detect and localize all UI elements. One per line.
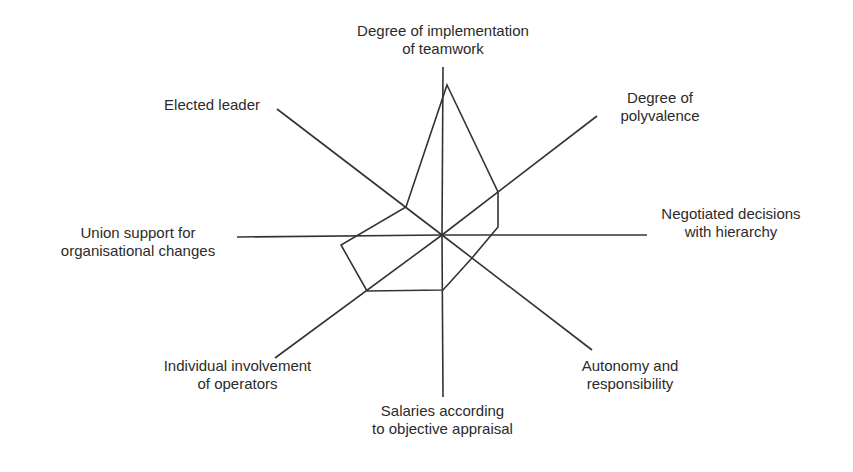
label-involvement: Individual involvement of operators bbox=[145, 357, 330, 393]
label-autonomy: Autonomy and responsibility bbox=[555, 357, 705, 393]
label-salaries: Salaries according to objective appraisa… bbox=[340, 402, 545, 438]
label-teamwork-line1: Degree of implementation bbox=[328, 22, 558, 40]
label-autonomy-line2: responsibility bbox=[555, 375, 705, 393]
label-union-line1: Union support for bbox=[38, 224, 238, 242]
label-salaries-line1: Salaries according bbox=[340, 402, 545, 420]
radar-axes bbox=[237, 67, 647, 397]
label-polyvalence: Degree of polyvalence bbox=[600, 89, 720, 125]
label-negotiated-line1: Negotiated decisions bbox=[636, 205, 826, 223]
axis-salaries bbox=[442, 235, 443, 397]
axis-polyvalence bbox=[442, 116, 597, 235]
label-polyvalence-line1: Degree of bbox=[600, 89, 720, 107]
label-union-line2: organisational changes bbox=[38, 242, 238, 260]
label-union: Union support for organisational changes bbox=[38, 224, 238, 260]
label-negotiated: Negotiated decisions with hierarchy bbox=[636, 205, 826, 241]
label-elected-leader: Elected leader bbox=[110, 96, 260, 114]
axis-teamwork bbox=[442, 67, 443, 235]
axis-involvement bbox=[275, 235, 442, 358]
label-involvement-line2: of operators bbox=[145, 375, 330, 393]
label-teamwork-line2: of teamwork bbox=[328, 40, 558, 58]
label-autonomy-line1: Autonomy and bbox=[555, 357, 705, 375]
axis-union bbox=[237, 235, 442, 237]
label-salaries-line2: to objective appraisal bbox=[340, 420, 545, 438]
axis-autonomy bbox=[442, 235, 592, 350]
label-polyvalence-line2: polyvalence bbox=[600, 107, 720, 125]
label-elected-line1: Elected leader bbox=[110, 96, 260, 114]
label-negotiated-line2: with hierarchy bbox=[636, 223, 826, 241]
label-involvement-line1: Individual involvement bbox=[145, 357, 330, 375]
label-teamwork: Degree of implementation of teamwork bbox=[328, 22, 558, 58]
